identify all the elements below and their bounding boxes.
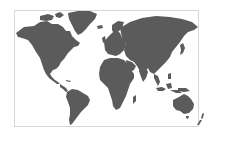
region-canadian-arctic [40, 12, 64, 21]
region-australia [173, 94, 194, 114]
region-madagascar [133, 95, 136, 104]
region-africa [99, 58, 134, 110]
region-south-america [66, 89, 90, 125]
region-caribbean [66, 80, 71, 82]
region-southeast-asia [154, 74, 160, 86]
region-tasmania [186, 116, 189, 119]
region-north-america [16, 21, 80, 84]
world-map-svg [0, 0, 232, 141]
world-map [0, 0, 232, 141]
region-japan [180, 43, 185, 55]
region-central-america [60, 84, 68, 92]
landmasses [16, 11, 204, 125]
region-greenland [68, 11, 97, 35]
region-philippines [168, 73, 171, 79]
region-iceland [97, 25, 103, 29]
